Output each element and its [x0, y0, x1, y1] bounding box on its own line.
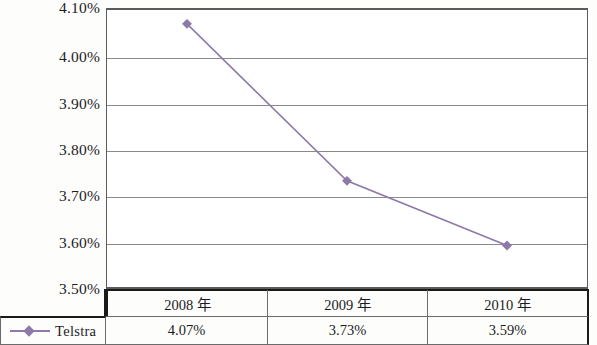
series-markers	[182, 19, 512, 250]
value-cell-2010: 3.59%	[428, 316, 589, 345]
y-axis: 4.10% 4.00% 3.90% 3.80% 3.70% 3.60% 3.50…	[0, 0, 103, 292]
y-tick-label: 4.00%	[0, 49, 100, 65]
value-cell-2009: 3.73%	[268, 316, 428, 345]
legend-label-telstra: Telstra	[55, 323, 96, 340]
line-chart: 4.10% 4.00% 3.90% 3.80% 3.70% 3.60% 3.50…	[0, 0, 597, 292]
y-tick-label: 3.80%	[0, 142, 100, 158]
series-telstra	[107, 10, 587, 287]
table-row: Telstra 4.07% 3.73% 3.59%	[0, 316, 589, 345]
table-header-row: 2008 年 2009 年 2010 年	[0, 289, 589, 316]
chart-page: 4.10% 4.00% 3.90% 3.80% 3.70% 3.60% 3.50…	[0, 0, 597, 345]
legend-diamond-icon	[10, 325, 50, 337]
value-cell-2008: 4.07%	[106, 316, 268, 345]
series-line	[187, 24, 507, 246]
data-table: 2008 年 2009 年 2010 年 Telstra 4.07% 3.73%…	[0, 289, 589, 345]
legend-marker	[23, 325, 34, 336]
column-header-2008: 2008 年	[106, 289, 268, 316]
y-tick-label: 3.60%	[0, 235, 100, 251]
legend-header-cell	[0, 289, 106, 316]
data-point-2010年	[502, 241, 512, 251]
column-header-2009: 2009 年	[268, 289, 428, 316]
plot-area	[106, 8, 588, 289]
legend-cell-telstra: Telstra	[0, 316, 106, 345]
y-tick-label: 4.10%	[0, 0, 100, 16]
y-tick-label: 3.90%	[0, 96, 100, 112]
y-tick-label: 3.70%	[0, 188, 100, 204]
column-header-2010: 2010 年	[428, 289, 589, 316]
